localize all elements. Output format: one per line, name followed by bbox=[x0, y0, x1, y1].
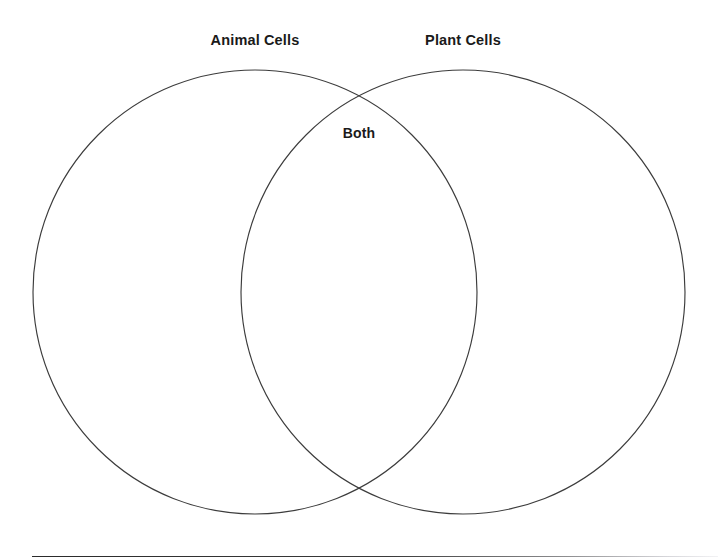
venn-label-intersection: Both bbox=[259, 126, 459, 140]
footer-divider-rule bbox=[32, 556, 718, 557]
diagram-background bbox=[0, 0, 718, 559]
venn-diagram bbox=[0, 0, 718, 559]
venn-label-right-set: Plant Cells bbox=[225, 33, 701, 48]
worksheet-page: Animal Cells Plant Cells Both bbox=[0, 0, 718, 559]
